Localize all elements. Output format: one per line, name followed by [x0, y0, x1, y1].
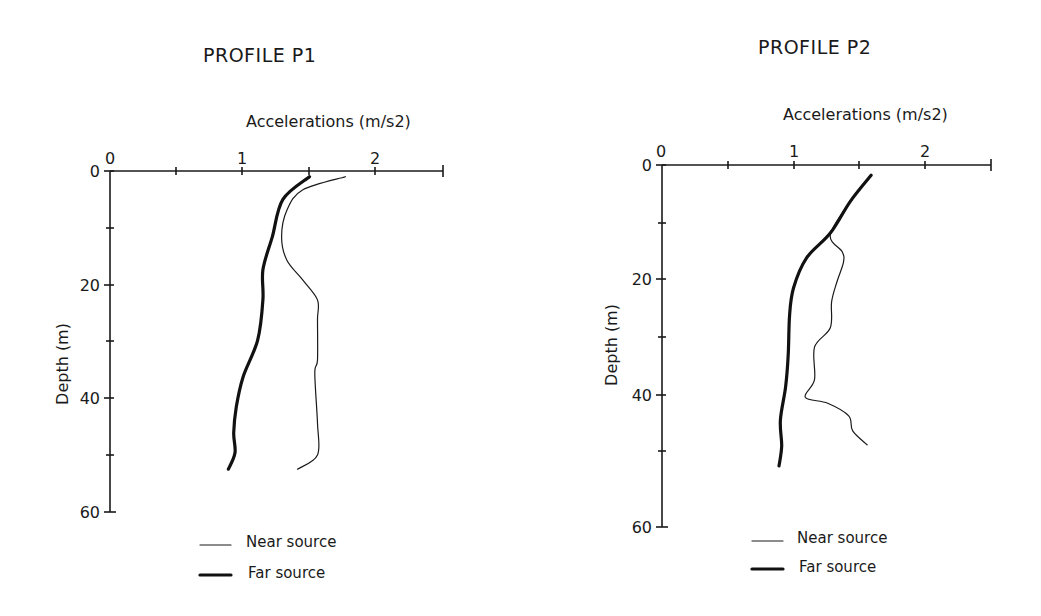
chart-title: PROFILE P1	[203, 44, 316, 66]
y-tick-label: 0	[90, 162, 100, 181]
y-tick-label: 40	[632, 386, 652, 405]
x-tick-label: 0	[105, 149, 115, 168]
y-tick-label: 60	[80, 503, 100, 522]
legend: Near source Far source	[752, 529, 887, 576]
x-tick-label: 2	[920, 142, 930, 161]
x-axis: 0 1 2	[105, 149, 443, 177]
y-axis: 0 20 40 60	[632, 156, 668, 537]
legend-label-near: Near source	[246, 533, 336, 551]
x-axis-label: Accelerations (m/s2)	[246, 112, 411, 131]
x-axis-label: Accelerations (m/s2)	[783, 105, 948, 124]
series-far-source	[779, 175, 871, 466]
y-tick-label: 20	[632, 270, 652, 289]
y-axis-label: Depth (m)	[53, 323, 72, 405]
x-tick-label: 0	[656, 142, 666, 161]
chart-title: PROFILE P2	[758, 36, 871, 58]
y-axis: 0 20 40 60	[80, 162, 116, 522]
x-tick-label: 1	[789, 142, 799, 161]
series-far-source	[228, 177, 309, 470]
panel-p2: PROFILE P2 Accelerations (m/s2) Depth (m…	[602, 36, 991, 576]
y-tick-label: 20	[80, 276, 100, 295]
y-axis-label: Depth (m)	[602, 304, 621, 386]
legend-label-far: Far source	[799, 558, 876, 576]
legend-label-near: Near source	[797, 529, 887, 547]
y-tick-label: 0	[642, 156, 652, 175]
panel-p1: PROFILE P1 Accelerations (m/s2) Depth (m…	[53, 44, 443, 582]
x-axis: 0 1 2	[656, 142, 991, 171]
y-tick-label: 40	[80, 389, 100, 408]
series-near-source	[805, 175, 871, 445]
figure-canvas: PROFILE P1 Accelerations (m/s2) Depth (m…	[0, 0, 1041, 616]
x-tick-label: 1	[237, 149, 247, 168]
legend: Near source Far source	[200, 533, 336, 582]
x-tick-label: 2	[370, 149, 380, 168]
y-tick-label: 60	[632, 518, 652, 537]
legend-label-far: Far source	[248, 564, 325, 582]
series-near-source	[282, 177, 346, 470]
